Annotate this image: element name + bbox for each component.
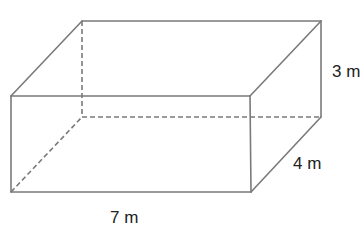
height-label: 3 m [332,63,360,80]
front-right-edge [250,96,251,192]
top-right-depth-edge [250,21,321,96]
visible-edges [11,21,321,192]
depth-label: 4 m [293,155,321,172]
rectangular-prism-diagram [0,0,364,227]
bottom-left-depth-edge [11,117,82,192]
top-left-depth-edge [11,21,82,96]
length-label: 7 m [110,209,138,226]
